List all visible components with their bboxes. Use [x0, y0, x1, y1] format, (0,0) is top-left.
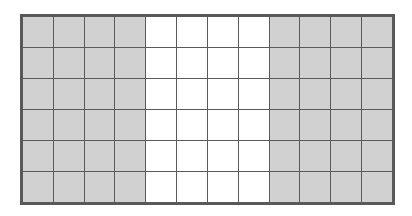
grid-cell-blank	[238, 48, 269, 79]
grid-cell-shaded	[23, 48, 54, 79]
grid-cell-shaded	[53, 141, 84, 172]
grid-cell-shaded	[53, 172, 84, 203]
grid-cell-blank	[207, 110, 238, 141]
grid-cell-shaded	[84, 48, 115, 79]
grid-cell-blank	[238, 110, 269, 141]
grid-row	[23, 141, 393, 172]
grid-cell-shaded	[300, 172, 331, 203]
grid-cell-shaded	[84, 79, 115, 110]
grid-cell-blank	[207, 17, 238, 48]
grid-cell-shaded	[115, 110, 146, 141]
grid-cell-shaded	[331, 48, 362, 79]
grid-cell-shaded	[84, 141, 115, 172]
grid-row	[23, 110, 393, 141]
grid-cell-blank	[238, 79, 269, 110]
grid-cell-shaded	[331, 79, 362, 110]
grid-cell-shaded	[23, 17, 54, 48]
grid-cell-shaded	[269, 141, 300, 172]
grid-cell-shaded	[300, 79, 331, 110]
grid-cell-blank	[238, 17, 269, 48]
grid-cell-shaded	[362, 48, 393, 79]
grid-cell-shaded	[269, 172, 300, 203]
grid-cell-shaded	[331, 17, 362, 48]
grid-cell-blank	[177, 172, 208, 203]
grid-cell-shaded	[331, 110, 362, 141]
grid-cell-shaded	[269, 48, 300, 79]
grid-cell-blank	[146, 172, 177, 203]
grid-row	[23, 172, 393, 203]
grid-cell-blank	[146, 110, 177, 141]
shaded-grid-figure	[20, 14, 395, 205]
grid-cell-shaded	[115, 79, 146, 110]
grid-cell-shaded	[300, 17, 331, 48]
grid-cell-blank	[146, 17, 177, 48]
grid-cell-blank	[177, 79, 208, 110]
grid-row	[23, 17, 393, 48]
grid-cell-blank	[207, 141, 238, 172]
grid-cell-blank	[207, 48, 238, 79]
grid-cell-shaded	[269, 110, 300, 141]
grid-cell-shaded	[300, 48, 331, 79]
grid-cell-blank	[238, 172, 269, 203]
grid-cell-shaded	[115, 172, 146, 203]
grid-cell-shaded	[269, 79, 300, 110]
grid-cell-shaded	[362, 17, 393, 48]
grid-cell-shaded	[53, 79, 84, 110]
grid-row	[23, 48, 393, 79]
grid-cell-shaded	[84, 110, 115, 141]
grid-cell-shaded	[269, 17, 300, 48]
grid-cell-shaded	[23, 141, 54, 172]
grid-cell-shaded	[23, 79, 54, 110]
grid-cell-shaded	[84, 172, 115, 203]
grid-cell-blank	[146, 79, 177, 110]
grid-cell-blank	[177, 48, 208, 79]
grid-cell-blank	[207, 172, 238, 203]
grid-cell-blank	[177, 141, 208, 172]
grid-cell-shaded	[53, 17, 84, 48]
grid-cell-blank	[177, 110, 208, 141]
grid-cell-shaded	[53, 48, 84, 79]
grid-cell-shaded	[331, 172, 362, 203]
grid-cell-shaded	[84, 17, 115, 48]
grid-cell-shaded	[362, 172, 393, 203]
grid-cell-blank	[238, 141, 269, 172]
grid-cell-blank	[146, 141, 177, 172]
grid-cell-shaded	[362, 141, 393, 172]
grid-body	[23, 17, 393, 203]
grid-cell-shaded	[300, 141, 331, 172]
grid-cell-blank	[177, 17, 208, 48]
grid-cell-blank	[146, 48, 177, 79]
grid-cell-blank	[207, 79, 238, 110]
grid-cell-shaded	[53, 110, 84, 141]
grid-cell-shaded	[362, 79, 393, 110]
grid-cell-shaded	[23, 110, 54, 141]
grid-cell-shaded	[115, 48, 146, 79]
grid-cell-shaded	[23, 172, 54, 203]
grid-row	[23, 79, 393, 110]
grid-cell-shaded	[115, 17, 146, 48]
grid-cell-shaded	[362, 110, 393, 141]
grid-cell-shaded	[331, 141, 362, 172]
grid-cell-shaded	[115, 141, 146, 172]
grid-cell-shaded	[300, 110, 331, 141]
grid-table	[22, 16, 393, 203]
